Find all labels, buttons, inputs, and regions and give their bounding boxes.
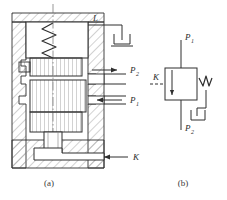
valve-schematic-symbol: P 1 P 2 K [150,32,212,135]
label-port-p1: P [129,95,136,105]
housing-top-cap [12,13,104,22]
figure-canvas: L P 2 P 1 K P 1 P 2 K (a) (b) [0,0,227,200]
sectional-valve-drawing: L P 2 P 1 K [12,4,140,168]
label-drain-l: L [92,13,98,23]
label-port-p1-sub: 1 [136,101,139,107]
label-control-k: K [132,152,140,162]
caption-a: (a) [44,178,54,188]
label-port-p2-sub: 2 [136,71,139,77]
valve-symbol-box [165,68,197,100]
symbol-tank-drain [191,110,205,120]
spool-upper-land [30,58,82,76]
hydraulic-valve-figure: L P 2 P 1 K P 1 P 2 K (a) (b) [0,0,227,200]
spool-middle-land [30,80,86,112]
p2-gallery [88,74,104,84]
spool-left-stub [19,62,30,72]
symbol-label-k: K [152,72,160,82]
spring-chamber [26,22,88,58]
symbol-return-spring [199,76,212,86]
symbol-label-p1: P [184,32,191,42]
spool-lower-land [30,112,82,132]
label-port-p2: P [129,65,136,75]
symbol-label-p1-sub: 1 [191,38,194,44]
symbol-label-p2: P [184,123,191,133]
symbol-label-p2-sub: 2 [191,129,194,135]
caption-b: (b) [178,178,189,188]
